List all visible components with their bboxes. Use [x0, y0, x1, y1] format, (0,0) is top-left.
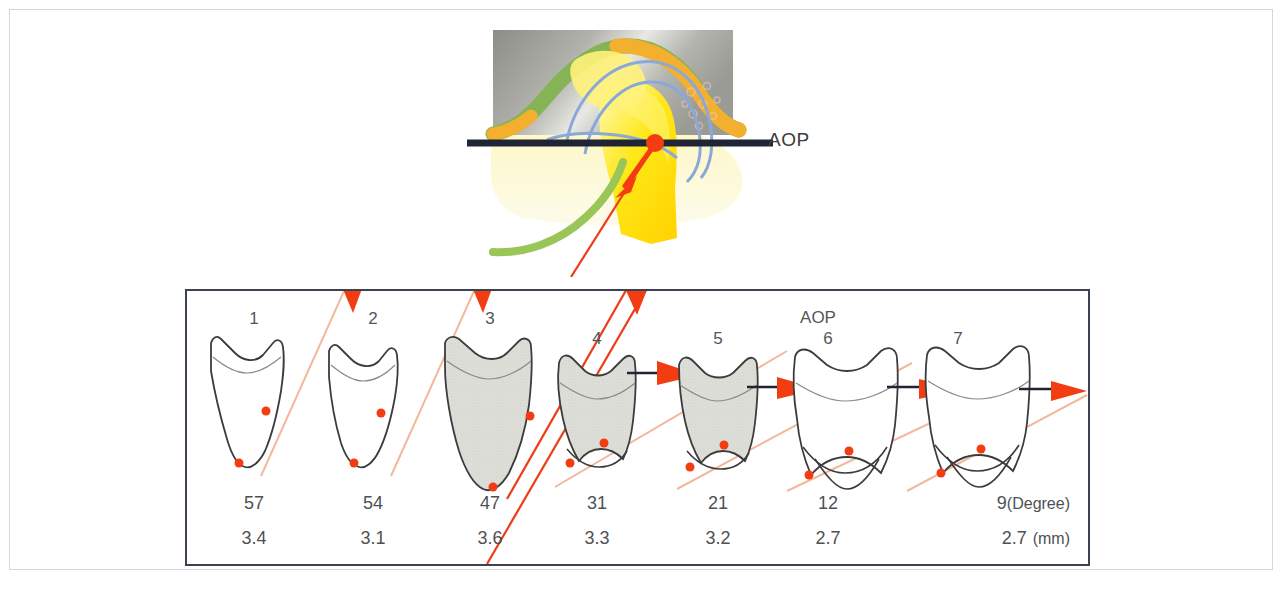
tooth-number-4: 4 — [577, 329, 617, 349]
tooth-shape-2 — [329, 345, 398, 467]
tooth-series-panel: 1 2 3 4 5 6 7 AOP 57 54 47 31 21 12 9(De… — [185, 289, 1090, 566]
contact-dot-icon — [262, 407, 271, 416]
mm-value-3: 3.6 — [455, 528, 525, 549]
degree-value-3: 47 — [455, 493, 525, 514]
degree-value-2: 54 — [338, 493, 408, 514]
contact-dot-icon — [350, 459, 359, 468]
contact-dot-icon — [937, 469, 946, 478]
degree-value-4: 31 — [562, 493, 632, 514]
degree-value-6: 12 — [793, 493, 863, 514]
contact-dot-icon — [600, 439, 609, 448]
tooth-shape-5 — [679, 358, 758, 469]
tooth-number-3: 3 — [470, 309, 510, 329]
tooth-number-5: 5 — [698, 329, 738, 349]
mm-value-2: 3.1 — [338, 528, 408, 549]
contact-dot-icon — [805, 471, 814, 480]
mm-value-7-number: 2.7 — [1002, 528, 1027, 548]
mm-value-4: 3.3 — [562, 528, 632, 549]
tooth-number-7: 7 — [938, 329, 978, 349]
contact-dot-icon — [845, 447, 854, 456]
mm-value-1: 3.4 — [219, 528, 289, 549]
caption-strip — [0, 583, 1285, 596]
red-dot-icon — [646, 134, 664, 152]
mm-value-5: 3.2 — [683, 528, 753, 549]
degree-unit-label: (Degree) — [1007, 495, 1070, 512]
contact-dot-icon — [566, 459, 575, 468]
degree-value-7: 9(Degree) — [910, 493, 1070, 514]
contact-dot-icon — [526, 412, 535, 421]
contact-dot-icon — [489, 483, 498, 492]
contact-dot-icon — [377, 409, 386, 418]
tooth-number-2: 2 — [353, 309, 393, 329]
tooth-shape-3 — [445, 337, 532, 490]
mm-value-6: 2.7 — [793, 528, 863, 549]
contact-dot-icon — [686, 463, 695, 472]
degree-value-7-number: 9 — [997, 493, 1007, 513]
tooth-shape-7 — [926, 346, 1030, 487]
tooth-number-1: 1 — [234, 309, 274, 329]
contact-dot-icon — [977, 445, 986, 454]
degree-value-5: 21 — [683, 493, 753, 514]
mm-unit-label: (mm) — [1033, 530, 1070, 547]
aop-top-label: AOP — [768, 129, 810, 151]
contact-dot-icon — [720, 441, 729, 450]
figure-root: AOP — [0, 0, 1285, 596]
mm-value-7: 2.7(mm) — [902, 528, 1070, 549]
aop-panel-label: AOP — [788, 308, 848, 328]
contact-dot-icon — [235, 459, 244, 468]
degree-value-1: 57 — [219, 493, 289, 514]
tooth-shape-6 — [794, 348, 898, 489]
tooth-number-6: 6 — [808, 329, 848, 349]
